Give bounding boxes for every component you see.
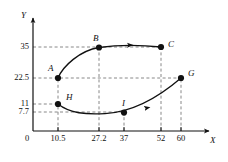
lower-curve-arrow: [135, 107, 150, 110]
ytick-label-22-5: 22.5: [3, 73, 29, 82]
x-axis-label: X: [210, 136, 216, 145]
point-H: [55, 101, 61, 107]
y-axis-label: Y: [21, 11, 26, 20]
xtick-label-27-2: 27.2: [84, 134, 114, 143]
point-G: [178, 75, 184, 81]
point-I: [121, 110, 127, 116]
upper-curve: [58, 45, 161, 78]
guide-lines: [33, 47, 181, 131]
point-label-H: H: [66, 93, 73, 102]
point-C: [158, 44, 164, 50]
figure-container: Y X 0 10.5 27.2 37 52 60 35 22.5 11 7.7 …: [0, 0, 228, 162]
xtick-label-37: 37: [112, 134, 136, 143]
ytick-label-7-7: 7.7: [3, 107, 29, 116]
point-label-C: C: [168, 40, 174, 49]
point-label-B: B: [93, 34, 99, 43]
ytick-label-35: 35: [3, 42, 29, 51]
point-B: [96, 44, 102, 50]
point-label-A: A: [48, 64, 54, 73]
point-A: [55, 75, 61, 81]
point-label-G: G: [188, 69, 195, 78]
xtick-label-10-5: 10.5: [43, 134, 73, 143]
origin-label: 0: [20, 134, 34, 143]
data-points: [55, 44, 184, 116]
xtick-label-60: 60: [169, 134, 193, 143]
lower-curve: [58, 78, 181, 114]
point-label-I: I: [122, 99, 125, 108]
